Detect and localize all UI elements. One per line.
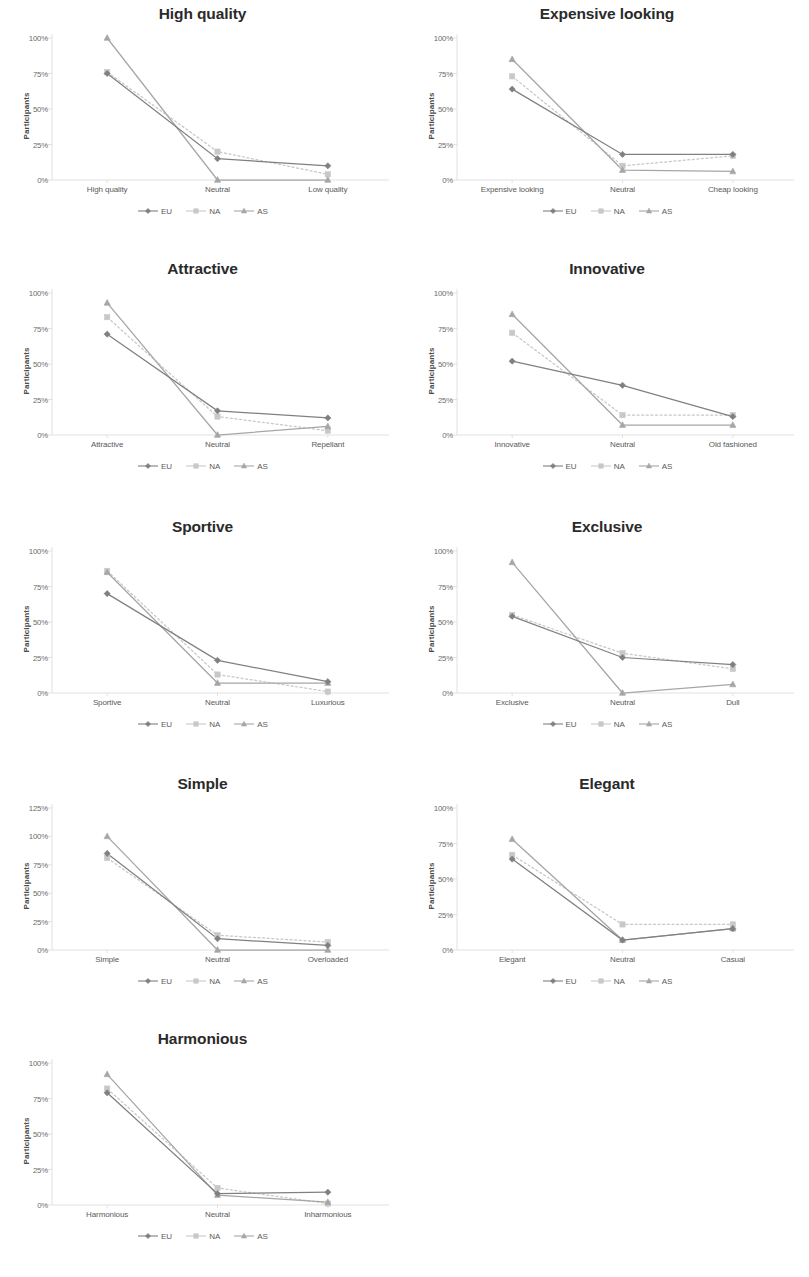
chart-legend: EU NA AS <box>405 459 809 473</box>
chart-legend: EU NA AS <box>405 974 809 988</box>
chart-2: Attractive Participants 0%25%50%75%100% … <box>0 255 405 513</box>
legend-item-na[interactable]: NA <box>185 1231 220 1241</box>
legend-label: EU <box>566 720 577 729</box>
plot-area <box>0 539 405 719</box>
legend-item-na[interactable]: NA <box>590 719 625 729</box>
legend-marker-triangle-icon <box>638 206 660 216</box>
legend-item-eu[interactable]: EU <box>137 719 172 729</box>
legend-marker-square-icon <box>185 719 207 729</box>
legend-item-as[interactable]: AS <box>233 976 268 986</box>
x-axis-tick: Cheap looking <box>708 185 758 194</box>
legend-label: AS <box>662 462 673 471</box>
plot-wrapper: Participants 0%25%50%75%100% InnovativeN… <box>405 281 809 461</box>
legend-item-eu[interactable]: EU <box>137 461 172 471</box>
legend-marker-square-icon <box>590 461 612 471</box>
x-axis-tick: Exclusive <box>496 698 529 707</box>
legend-item-na[interactable]: NA <box>185 206 220 216</box>
x-axis-tick: Sportive <box>93 698 122 707</box>
legend-marker-square-icon <box>185 976 207 986</box>
legend-marker-triangle-icon <box>233 719 255 729</box>
legend-item-as[interactable]: AS <box>638 461 673 471</box>
x-axis-ticks: ElegantNeutralCasual <box>405 955 809 969</box>
legend-label: EU <box>161 1232 172 1241</box>
legend-marker-diamond-icon <box>137 719 159 729</box>
chart-title: Exclusive <box>405 513 809 539</box>
plot-wrapper: Participants 0%25%50%75%100% High qualit… <box>0 26 405 206</box>
plot-wrapper: Participants 0%25%50%75%100% SportiveNeu… <box>0 539 405 719</box>
chart-title: Elegant <box>405 770 809 796</box>
legend-item-na[interactable]: NA <box>185 461 220 471</box>
chart-legend: EU NA AS <box>0 204 405 218</box>
legend-item-eu[interactable]: EU <box>137 206 172 216</box>
legend-label: AS <box>662 720 673 729</box>
chart-legend: EU NA AS <box>405 204 809 218</box>
legend-item-eu[interactable]: EU <box>542 461 577 471</box>
x-axis-tick: Neutral <box>205 955 230 964</box>
legend-marker-diamond-icon <box>542 976 564 986</box>
chart-title: Simple <box>0 770 405 796</box>
legend-item-as[interactable]: AS <box>233 1231 268 1241</box>
legend-label: AS <box>257 720 268 729</box>
legend-label: NA <box>209 977 220 986</box>
legend-item-na[interactable]: NA <box>590 461 625 471</box>
legend-label: EU <box>566 207 577 216</box>
x-axis-tick: Repellant <box>311 440 344 449</box>
legend-marker-diamond-icon <box>137 206 159 216</box>
legend-label: AS <box>257 1232 268 1241</box>
legend-label: NA <box>209 720 220 729</box>
legend-marker-square-icon <box>185 1231 207 1241</box>
x-axis-ticks: Expensive lookingNeutralCheap looking <box>405 185 809 199</box>
x-axis-tick: Elegant <box>499 955 525 964</box>
x-axis-tick: Neutral <box>205 1210 230 1219</box>
legend-marker-triangle-icon <box>233 206 255 216</box>
x-axis-tick: Neutral <box>610 698 635 707</box>
legend-marker-triangle-icon <box>233 1231 255 1241</box>
plot-wrapper: Participants 0%25%50%75%100% HarmoniousN… <box>0 1051 405 1231</box>
legend-item-eu[interactable]: EU <box>542 976 577 986</box>
legend-marker-square-icon <box>185 461 207 471</box>
legend-label: NA <box>614 207 625 216</box>
legend-item-as[interactable]: AS <box>233 206 268 216</box>
x-axis-ticks: InnovativeNeutralOld fashioned <box>405 440 809 454</box>
legend-label: AS <box>662 207 673 216</box>
chart-title: Expensive looking <box>405 0 809 26</box>
legend-marker-triangle-icon <box>638 461 660 471</box>
legend-item-na[interactable]: NA <box>185 719 220 729</box>
plot-wrapper: Participants 0%25%50%75%100% ExclusiveNe… <box>405 539 809 719</box>
legend-item-as[interactable]: AS <box>638 206 673 216</box>
x-axis-tick: Neutral <box>205 185 230 194</box>
legend-marker-diamond-icon <box>137 461 159 471</box>
plot-wrapper: Participants 0%25%50%75%100% AttractiveN… <box>0 281 405 461</box>
x-axis-tick: Old fashioned <box>709 440 757 449</box>
legend-item-as[interactable]: AS <box>233 719 268 729</box>
legend-item-as[interactable]: AS <box>638 719 673 729</box>
plot-area <box>0 1051 405 1231</box>
legend-item-eu[interactable]: EU <box>137 976 172 986</box>
legend-item-as[interactable]: AS <box>233 461 268 471</box>
legend-item-as[interactable]: AS <box>638 976 673 986</box>
legend-label: NA <box>209 207 220 216</box>
legend-item-na[interactable]: NA <box>590 206 625 216</box>
legend-marker-diamond-icon <box>137 976 159 986</box>
chart-7: Elegant Participants 0%25%50%75%100% Ele… <box>405 770 809 1025</box>
x-axis-tick: Neutral <box>610 955 635 964</box>
legend-label: EU <box>161 462 172 471</box>
legend-item-eu[interactable]: EU <box>137 1231 172 1241</box>
chart-3: Innovative Participants 0%25%50%75%100% … <box>405 255 809 513</box>
legend-item-eu[interactable]: EU <box>542 719 577 729</box>
legend-item-na[interactable]: NA <box>590 976 625 986</box>
x-axis-tick: Neutral <box>205 698 230 707</box>
legend-item-eu[interactable]: EU <box>542 206 577 216</box>
x-axis-tick: Simple <box>95 955 119 964</box>
legend-marker-diamond-icon <box>542 461 564 471</box>
chart-title: Attractive <box>0 255 405 281</box>
x-axis-ticks: AttractiveNeutralRepellant <box>0 440 405 454</box>
x-axis-tick: Expensive looking <box>481 185 544 194</box>
legend-label: EU <box>566 977 577 986</box>
x-axis-tick: Casual <box>721 955 745 964</box>
legend-item-na[interactable]: NA <box>185 976 220 986</box>
x-axis-ticks: SimpleNeutralOverloaded <box>0 955 405 969</box>
legend-label: AS <box>257 207 268 216</box>
plot-wrapper: Participants 0%25%50%75%100%125% SimpleN… <box>0 796 405 976</box>
plot-area <box>0 281 405 461</box>
